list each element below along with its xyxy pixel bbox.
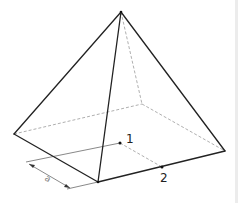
page-edge-strip bbox=[235, 0, 238, 203]
point-1-label: 1 bbox=[126, 132, 134, 146]
pyramid-diagram: a 1 2 bbox=[0, 0, 238, 203]
edge-left-front bbox=[14, 134, 98, 182]
reference-line-1 bbox=[26, 143, 120, 162]
edge-apex-front bbox=[98, 12, 121, 182]
vertex-front bbox=[97, 181, 100, 184]
point-2 bbox=[161, 166, 164, 169]
dimension-arrow-start bbox=[29, 164, 35, 168]
point-1 bbox=[119, 142, 122, 145]
reference-line-front bbox=[67, 182, 98, 189]
hidden-line-1-to-2 bbox=[120, 143, 162, 167]
edge-apex-left bbox=[14, 12, 121, 134]
dimension-label: a bbox=[43, 173, 53, 184]
point-2-label: 2 bbox=[160, 171, 168, 185]
hidden-edge-back-right bbox=[142, 104, 225, 151]
dimension-arrow-end bbox=[64, 184, 70, 188]
vertex-apex bbox=[120, 11, 123, 14]
hidden-edge-left-back bbox=[14, 104, 142, 134]
